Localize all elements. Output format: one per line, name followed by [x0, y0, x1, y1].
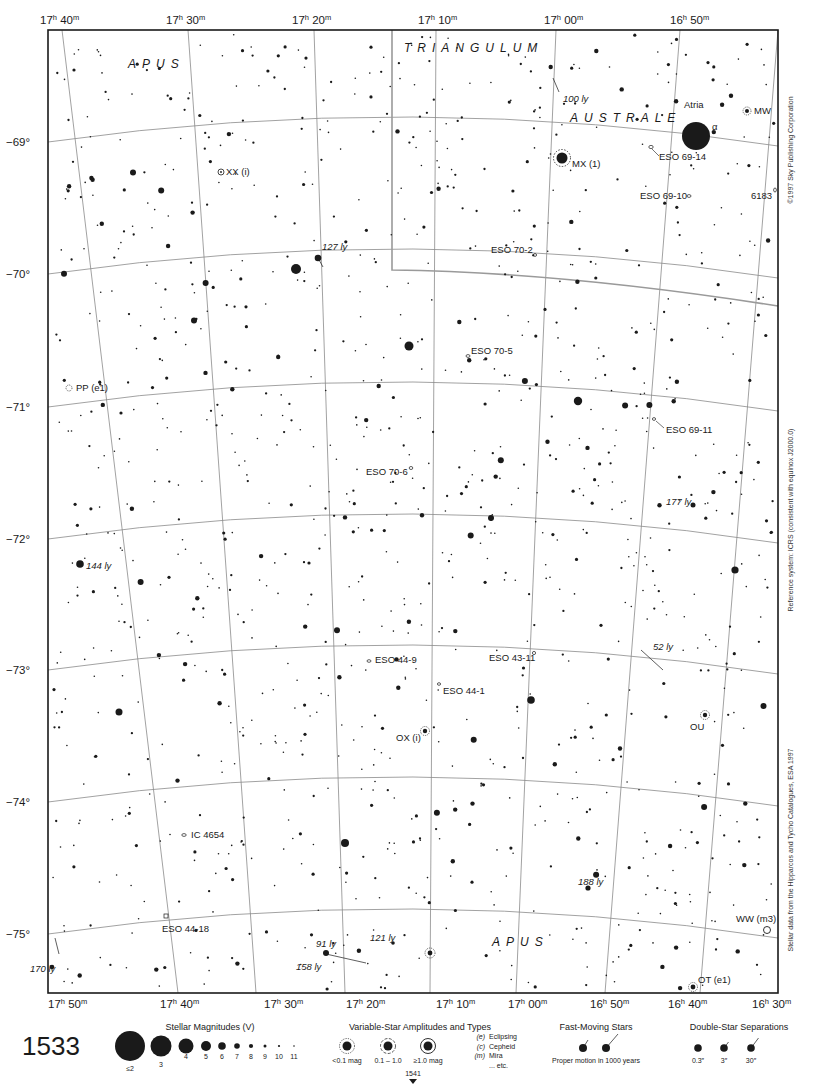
adjacent-page-arrow-icon[interactable] [409, 1079, 417, 1084]
star [754, 244, 756, 246]
star [682, 650, 684, 652]
object-label--[interactable]: α [712, 121, 718, 132]
star [500, 446, 502, 448]
object-label-ww-m3-[interactable]: WW (m3) [736, 913, 776, 924]
star [209, 160, 212, 163]
star-large[interactable] [116, 709, 123, 716]
object-label-eso-69-10[interactable]: ESO 69-10 [640, 190, 687, 201]
star [701, 252, 703, 254]
star [113, 256, 115, 258]
object-label-eso-43-11[interactable]: ESO 43-11 [489, 652, 535, 663]
object-label-eso-70-5[interactable]: ESO 70-5 [471, 345, 513, 356]
object-label-eso-69-14[interactable]: ESO 69-14 [659, 151, 706, 162]
star [365, 344, 367, 346]
star [225, 867, 228, 870]
star [562, 653, 564, 655]
star [757, 863, 759, 865]
cluster-eso-44-1-symbol[interactable] [437, 683, 440, 686]
star [163, 966, 166, 969]
star [528, 593, 530, 595]
ww-variable-symbol[interactable] [764, 927, 771, 934]
star-large[interactable] [574, 397, 582, 405]
object-label-eso-44-18[interactable]: ESO 44-18 [162, 923, 209, 934]
star [233, 34, 235, 36]
proper-motion-arrow [326, 954, 366, 963]
variable-type-code: (c) [477, 1043, 485, 1051]
object-label-6183[interactable]: 6183 [751, 190, 772, 201]
mw-variable-star[interactable] [745, 109, 749, 113]
galaxy-6183-symbol[interactable] [774, 188, 777, 192]
mx-variable-star[interactable] [557, 153, 568, 164]
star [677, 221, 679, 223]
object-label-eso-70-2[interactable]: ESO 70-2 [491, 244, 533, 255]
star-large[interactable] [405, 342, 414, 351]
ox-variable-star[interactable] [423, 729, 427, 733]
object-label-atria[interactable]: Atria [684, 99, 704, 110]
star [392, 396, 395, 399]
star [498, 390, 500, 392]
adjacent-page-number[interactable]: 1541 [405, 1070, 421, 1077]
star-large[interactable] [527, 696, 535, 704]
object-label-mx-1-[interactable]: MX (1) [572, 158, 601, 169]
cluster-eso-70-5-symbol[interactable] [466, 355, 470, 358]
object-label-eso-69-11[interactable]: ESO 69-11 [666, 424, 712, 435]
star [251, 637, 253, 639]
star [175, 317, 177, 319]
cluster-ic-4654-symbol[interactable] [182, 834, 186, 837]
star [414, 84, 416, 86]
star-large[interactable] [731, 566, 738, 573]
variable-type-code: (m) [475, 1052, 486, 1060]
star [300, 740, 302, 742]
star [274, 741, 276, 743]
cluster-eso-69-11-symbol[interactable] [652, 418, 655, 421]
cluster-eso-70-6-symbol[interactable] [409, 467, 413, 470]
star [757, 313, 760, 316]
object-label-ot-e1-[interactable]: OT (e1) [698, 974, 731, 985]
pp-variable-ring[interactable] [66, 385, 72, 391]
star [729, 626, 731, 628]
star-144ly[interactable] [76, 560, 84, 568]
object-label-ic-4654[interactable]: IC 4654 [191, 829, 224, 840]
star-127ly[interactable] [315, 255, 322, 262]
var-star-apus-south[interactable] [428, 951, 433, 956]
star-91ly[interactable] [323, 950, 329, 956]
ot-variable-star[interactable] [691, 985, 696, 990]
object-label-eso-44-1[interactable]: ESO 44-1 [443, 685, 485, 696]
star [316, 712, 318, 714]
object-label-eso-44-9[interactable]: ESO 44-9 [375, 654, 417, 665]
star [693, 168, 695, 170]
object-label-ox-i-[interactable]: OX (i) [396, 732, 421, 743]
object-label-mw[interactable]: MW [754, 105, 771, 116]
star [490, 891, 492, 893]
star [215, 873, 217, 875]
star [222, 531, 225, 534]
dec-label: −73° [6, 664, 30, 676]
star [644, 392, 646, 394]
object-label-pp-e1-[interactable]: PP (e1) [76, 382, 108, 393]
object-label-eso-70-6[interactable]: ESO 70-6 [366, 466, 408, 477]
star [216, 404, 218, 406]
cluster-eso-44-18-symbol[interactable] [164, 914, 168, 918]
star [242, 968, 244, 970]
object-label-ou[interactable]: OU [690, 721, 704, 732]
atria-star[interactable] [682, 122, 710, 150]
star [139, 637, 141, 639]
star [642, 143, 644, 145]
cluster-eso-69-14-symbol[interactable] [649, 145, 653, 148]
object-label-xx-i-[interactable]: XX (i) [226, 166, 250, 177]
ou-variable-star[interactable] [703, 713, 707, 717]
star [629, 689, 631, 691]
ra-label-top: 17h 00m [544, 13, 583, 26]
star-large[interactable] [341, 839, 349, 847]
cluster-eso-69-10-symbol[interactable] [687, 195, 691, 198]
cluster-eso-44-9-symbol[interactable] [367, 660, 371, 663]
star-large[interactable] [291, 264, 301, 274]
star [100, 291, 102, 293]
constellation-name: APUS [127, 57, 185, 71]
star [397, 561, 399, 563]
star [726, 83, 728, 85]
star [421, 36, 423, 38]
star [420, 513, 424, 517]
star [304, 171, 306, 173]
star [452, 765, 454, 767]
